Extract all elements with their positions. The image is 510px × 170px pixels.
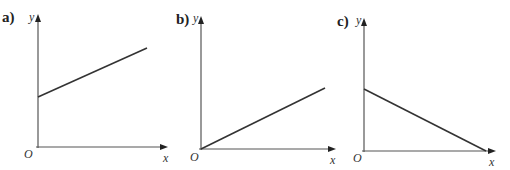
panel-a: a) y O x bbox=[2, 9, 169, 165]
panel-c-x-arrow-icon bbox=[488, 148, 496, 154]
panel-a-line bbox=[38, 48, 147, 97]
panel-a-x-arrow-icon bbox=[160, 144, 168, 150]
panel-b-line bbox=[201, 88, 325, 149]
panel-a-x-label: x bbox=[162, 151, 169, 165]
panel-a-y-arrow-icon bbox=[35, 14, 41, 22]
panel-a-y-label: y bbox=[28, 10, 35, 24]
panel-c-y-arrow-icon bbox=[361, 18, 367, 26]
panel-c-origin-label: O bbox=[353, 151, 362, 165]
panel-b-label: b) bbox=[176, 11, 189, 28]
panel-c-y-label: y bbox=[355, 13, 362, 27]
panel-b-y-label: y bbox=[192, 11, 199, 25]
panel-a-label: a) bbox=[2, 9, 15, 26]
panel-b-origin-label: O bbox=[190, 150, 199, 164]
panel-a-origin-label: O bbox=[24, 147, 33, 161]
panel-b-x-label: x bbox=[329, 153, 336, 167]
panel-c-x-label: x bbox=[488, 155, 495, 169]
panel-b-y-arrow-icon bbox=[198, 16, 204, 24]
graphs-figure: a) y O x b) y O x c) y O x bbox=[0, 0, 510, 170]
panel-b: b) y O x bbox=[176, 11, 336, 167]
panel-c-line bbox=[364, 89, 486, 151]
panel-c: c) y O x bbox=[337, 13, 496, 169]
panel-b-x-arrow-icon bbox=[328, 146, 336, 152]
panel-c-label: c) bbox=[337, 13, 349, 30]
